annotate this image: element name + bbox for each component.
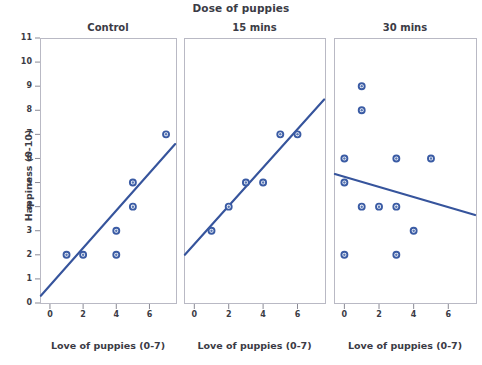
data-point-core xyxy=(360,85,363,88)
data-point-core xyxy=(262,181,265,184)
x-tick-label: 4 xyxy=(408,310,420,319)
y-tick-label: 5 xyxy=(14,178,32,187)
panel-title-1: 15 mins xyxy=(184,22,325,33)
data-point-core xyxy=(343,157,346,160)
y-tick-label: 10 xyxy=(14,57,32,66)
data-point-core xyxy=(412,229,415,232)
data-point-core xyxy=(343,254,346,257)
y-tick-label: 8 xyxy=(14,105,32,114)
data-point-core xyxy=(210,229,213,232)
y-tick-label: 9 xyxy=(14,81,32,90)
x-tick-label: 6 xyxy=(442,310,454,319)
y-tick-label: 1 xyxy=(14,274,32,283)
data-point-core xyxy=(360,109,363,112)
x-tick-label: 4 xyxy=(257,310,269,319)
data-point-core xyxy=(245,181,248,184)
data-point-core xyxy=(430,157,433,160)
y-tick-label: 11 xyxy=(14,33,32,42)
data-point-core xyxy=(343,181,346,184)
data-point-core xyxy=(132,181,135,184)
x-tick-label: 2 xyxy=(77,310,89,319)
data-point-core xyxy=(132,205,135,208)
scatter-figure: Dose of puppies Happiness (0-10) Control… xyxy=(0,0,482,365)
x-tick-label: 2 xyxy=(223,310,235,319)
x-tick-label: 0 xyxy=(44,310,56,319)
x-tick-label: 4 xyxy=(110,310,122,319)
data-point-core xyxy=(395,157,398,160)
x-axis-label-1: Love of puppies (0-7) xyxy=(178,340,331,351)
y-tick-label: 4 xyxy=(14,202,32,211)
data-point-core xyxy=(360,205,363,208)
x-tick-label: 0 xyxy=(188,310,200,319)
data-point-core xyxy=(395,254,398,257)
x-axis-label-2: Love of puppies (0-7) xyxy=(328,340,482,351)
y-tick-label: 2 xyxy=(14,250,32,259)
panel-title-0: Control xyxy=(40,22,176,33)
data-point-core xyxy=(279,133,282,136)
data-point-core xyxy=(82,254,85,257)
data-point-core xyxy=(296,133,299,136)
panel-frame xyxy=(335,39,477,304)
data-point-core xyxy=(65,254,68,257)
y-tick-label: 3 xyxy=(14,226,32,235)
panel-title-2: 30 mins xyxy=(334,22,476,33)
x-tick-label: 6 xyxy=(143,310,155,319)
data-point-core xyxy=(395,205,398,208)
panel-frame xyxy=(41,39,177,304)
x-tick-label: 2 xyxy=(373,310,385,319)
y-tick-label: 0 xyxy=(14,298,32,307)
panel-frame xyxy=(185,39,326,304)
data-point-core xyxy=(165,133,168,136)
x-tick-label: 6 xyxy=(291,310,303,319)
x-tick-label: 0 xyxy=(338,310,350,319)
y-tick-label: 7 xyxy=(14,129,32,138)
data-point-core xyxy=(115,254,118,257)
data-point-core xyxy=(378,205,381,208)
x-axis-label-0: Love of puppies (0-7) xyxy=(34,340,182,351)
data-point-core xyxy=(227,205,230,208)
data-point-core xyxy=(115,229,118,232)
y-tick-label: 6 xyxy=(14,153,32,162)
